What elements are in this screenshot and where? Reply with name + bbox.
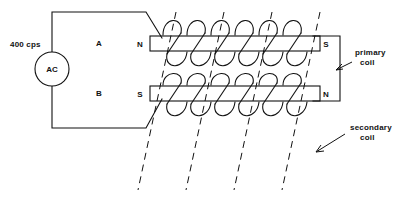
lower-coil-arc-bottom-6 <box>287 102 307 116</box>
upper-coil-arc-top-2 <box>187 20 205 35</box>
lower-coil-arc-bottom-5 <box>263 102 283 116</box>
upper-branch-label: A <box>96 39 102 48</box>
pole-label-upper-right: S <box>323 40 329 49</box>
upper-coil-arc-top-4 <box>235 20 253 35</box>
lower-coil-arc-top-6 <box>283 73 301 85</box>
primary-coil-annotation: primary coil <box>336 48 386 70</box>
secondary-coil-label-line1: secondary <box>350 123 392 132</box>
lower-coil-arc-bottom-4 <box>239 102 259 116</box>
secondary-coil-annotation: secondary coil <box>316 123 392 152</box>
diagram-canvas: 400 cps AC A B N S S N primary coil seco… <box>0 0 400 199</box>
lower-coil-arc-top-4 <box>235 73 253 85</box>
lower-coil-arc-bottom-1 <box>167 102 187 116</box>
primary-coil-label-line1: primary <box>355 48 386 57</box>
arrow-left-icon <box>336 62 352 70</box>
lower-coil-arc-bottom-2 <box>191 102 211 116</box>
lower-coil-arc-top-5 <box>259 73 277 85</box>
lower-coil-arc-top-3 <box>211 73 229 85</box>
pole-label-upper-left: N <box>137 40 143 49</box>
upper-coil-arc-bottom-3 <box>215 52 235 66</box>
upper-branch-wire <box>52 12 162 52</box>
upper-coil-winding <box>163 20 307 65</box>
primary-coil-label-line2: coil <box>360 58 375 67</box>
lower-coil-arc-top-2 <box>187 73 205 85</box>
lower-branch-wire <box>52 86 162 128</box>
lower-coil-arc-top-1 <box>163 73 181 85</box>
lower-coil-arc-bottom-3 <box>215 102 235 116</box>
lower-branch-label: B <box>96 89 102 98</box>
ac-source-label: AC <box>46 65 58 74</box>
secondary-coil-label-line2: coil <box>360 133 375 142</box>
pole-label-lower-right: N <box>323 90 329 99</box>
upper-coil-arc-bottom-6 <box>287 52 307 66</box>
upper-coil-arc-top-6 <box>283 20 301 35</box>
frequency-label: 400 cps <box>10 40 41 49</box>
arrow-down-left-icon <box>316 134 345 152</box>
upper-coil-arc-bottom-5 <box>263 52 283 66</box>
pole-label-lower-left: S <box>137 90 143 99</box>
circuit-diagram-figure: 400 cps AC A B N S S N primary coil seco… <box>0 0 400 199</box>
upper-coil-arc-bottom-4 <box>239 52 259 66</box>
upper-coil-arc-bottom-1 <box>167 52 187 66</box>
lower-coil-winding <box>163 73 307 115</box>
upper-coil-arc-bottom-2 <box>191 52 211 66</box>
